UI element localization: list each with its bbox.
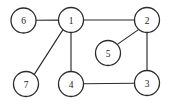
graph-node-5[interactable]: 5 [96,41,121,66]
graph-node-7[interactable]: 7 [14,72,39,97]
graph-node-4[interactable]: 4 [59,72,84,97]
graph-node-label-5: 5 [106,49,111,59]
nodes-layer: 6125743 [11,8,160,97]
graph-edge-2-5 [117,29,139,44]
graph-node-1[interactable]: 1 [59,8,84,33]
edges-layer [34,20,147,84]
graph-edge-4-3 [84,83,135,84]
graph-node-2[interactable]: 2 [135,8,160,33]
graph-node-label-2: 2 [145,16,150,26]
graph-node-label-7: 7 [24,80,29,90]
graph-canvas: 6125743 [0,0,176,106]
graph-node-label-1: 1 [69,16,74,26]
graph-node-label-3: 3 [145,79,150,89]
graph-node-3[interactable]: 3 [135,71,160,96]
graph-node-6[interactable]: 6 [11,8,36,33]
graph-node-label-4: 4 [69,80,74,90]
graph-edge-1-7 [34,30,63,75]
graph-node-label-6: 6 [21,16,26,26]
graph-figure: 6125743 [0,0,176,106]
